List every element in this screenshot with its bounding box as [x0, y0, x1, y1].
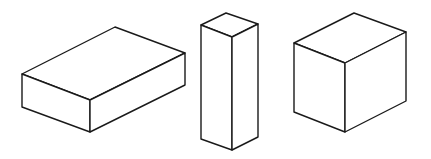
cube-shape — [294, 13, 406, 132]
flat-box-shape — [22, 27, 185, 132]
shapes-canvas — [0, 0, 431, 159]
tall-pillar-left-face — [201, 25, 232, 150]
tall-pillar-right-face — [232, 24, 258, 150]
tall-pillar-shape — [201, 13, 258, 150]
